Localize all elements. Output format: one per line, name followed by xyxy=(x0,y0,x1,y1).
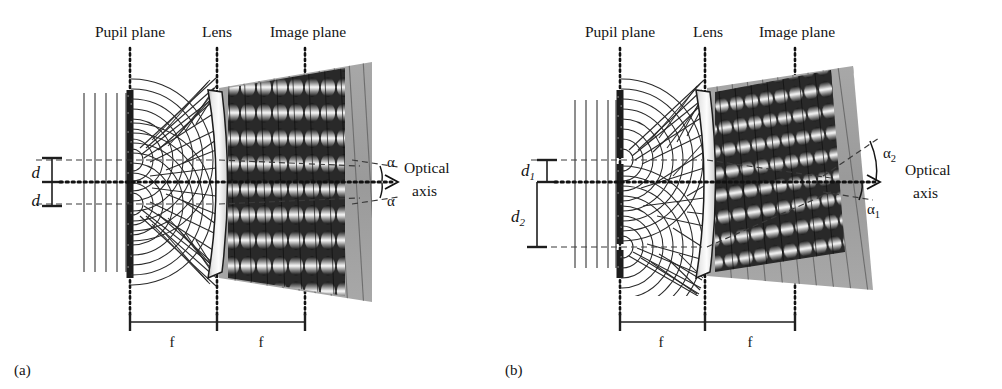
label-lens-a: Lens xyxy=(202,23,232,40)
interference-fringes-a xyxy=(224,52,352,308)
label-d-upper-a: d xyxy=(32,163,41,182)
label-image-plane-a: Image plane xyxy=(270,23,346,40)
optics-figure: Pupil plane Lens Image plane xyxy=(0,0,1002,389)
label-f-left-a: f xyxy=(170,334,175,350)
label-pupil-plane-b: Pupil plane xyxy=(585,23,655,40)
label-optical-b-line1: Optical xyxy=(905,161,951,178)
label-d-lower-a: d xyxy=(32,191,41,210)
label-optical-b-line2: axis xyxy=(913,184,938,201)
label-alpha-lower-a: α xyxy=(387,193,395,209)
panel-caption-b: (b) xyxy=(505,362,523,379)
panel-b: Pupil plane Lens Image plane xyxy=(501,0,1002,389)
panel-caption-a: (a) xyxy=(14,362,31,379)
panel-a: Pupil plane Lens Image plane xyxy=(0,0,501,389)
label-lens-b: Lens xyxy=(693,23,723,40)
label-alpha-upper-a: α xyxy=(387,154,395,170)
label-f-left-b: f xyxy=(659,334,664,350)
label-image-plane-b: Image plane xyxy=(759,23,835,40)
pupil-mask-a xyxy=(127,90,134,278)
label-optical-a-line2: axis xyxy=(412,182,437,199)
label-f-right-a: f xyxy=(259,334,264,350)
label-optical-a-line1: Optical xyxy=(404,159,450,176)
label-pupil-plane-a: Pupil plane xyxy=(95,23,165,40)
label-f-right-b: f xyxy=(748,334,753,350)
